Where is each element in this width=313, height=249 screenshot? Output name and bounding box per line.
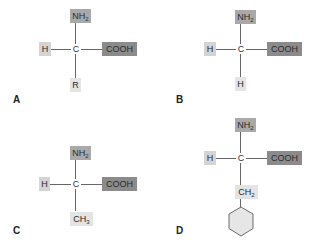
amino-group: NH2 — [235, 118, 256, 132]
hydrogen-left: H — [204, 151, 216, 165]
cyclohexane-ring-icon — [227, 205, 255, 238]
carboxyl-group: COOH — [267, 151, 302, 165]
panel-d: NH2 H C COOH CH2 D — [0, 0, 313, 249]
panel-label: D — [176, 225, 183, 236]
side-chain-methylene: CH2 — [235, 185, 258, 199]
alpha-carbon: C — [236, 153, 246, 163]
